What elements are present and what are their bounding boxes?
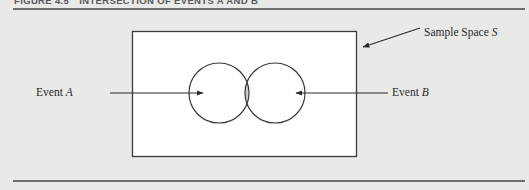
event-b-label: Event B (392, 87, 429, 99)
event-a-label: Event A (36, 87, 73, 99)
event-b-label-text: Event (392, 86, 419, 98)
sample-space-label-var: S (492, 26, 498, 38)
sample-space-label: Sample Space S (424, 27, 497, 39)
sample-space-leader-arrow (363, 28, 420, 47)
event-a-label-var: A (66, 86, 73, 98)
event-a-label-text: Event (36, 86, 63, 98)
event-b-label-var: B (422, 86, 429, 98)
sample-space-label-text: Sample Space (424, 26, 489, 38)
figure-container: FIGURE 4.5INTERSECTION OF EVENTS A AND B (0, 0, 529, 190)
